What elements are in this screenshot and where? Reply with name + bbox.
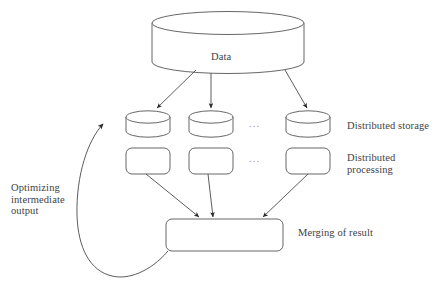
storage-node-1: [126, 111, 170, 137]
merging-of-result-label: Merging of result: [298, 227, 373, 239]
connector-processing-1-to-merge: [146, 174, 199, 217]
processing-node-1: [126, 148, 170, 174]
processing-row-ellipsis: ...: [249, 152, 260, 164]
storage-node-2: [189, 111, 233, 137]
distributed-processing-label: Distributedprocessing: [347, 152, 395, 175]
connector-processing-2-to-merge: [208, 174, 213, 217]
connector-processing-3-to-merge: [263, 174, 308, 217]
feedback-loop-arrow: [77, 124, 168, 277]
feedback-label-line1: Optimizing: [11, 182, 60, 193]
feedback-label-line2: intermediate: [11, 194, 65, 205]
optimizing-intermediate-output-label: Optimizingintermediateoutput: [11, 182, 65, 217]
connector-data-to-storage-3: [285, 70, 307, 108]
distributed-processing-label-line1: Distributed: [347, 152, 395, 163]
data-cylinder-label: Data: [211, 51, 231, 63]
processing-node-2: [189, 148, 233, 174]
distributed-processing-label-line2: processing: [347, 164, 393, 175]
storage-node-3: [286, 111, 330, 137]
connector-data-to-storage-1: [157, 70, 196, 108]
processing-node-3: [286, 148, 330, 174]
diagram-canvas: Data Distributed storage Distributedproc…: [0, 0, 445, 288]
data-cylinder: [152, 12, 304, 74]
feedback-label-line3: output: [11, 205, 38, 216]
merge-box: [166, 219, 283, 251]
diagram-vector-layer: [0, 0, 445, 288]
distributed-storage-label: Distributed storage: [347, 120, 429, 132]
storage-row-ellipsis: ...: [249, 117, 260, 129]
